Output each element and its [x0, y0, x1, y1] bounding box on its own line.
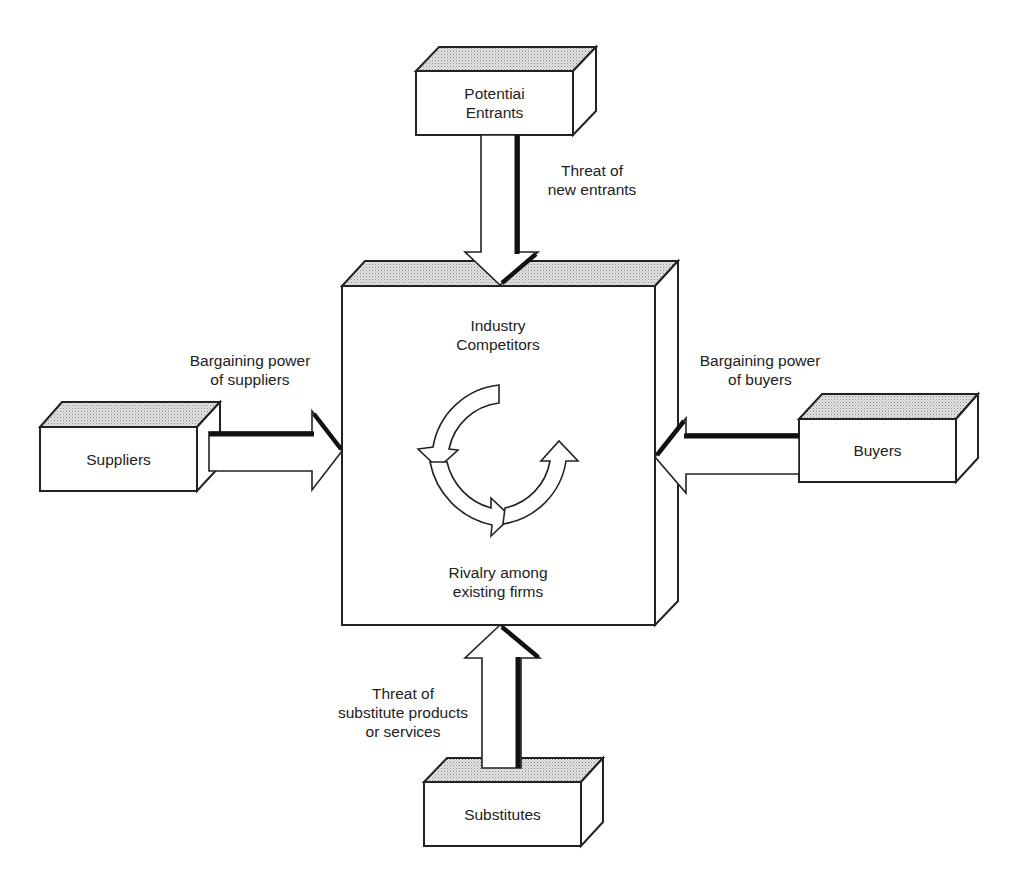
substitutes-box: [424, 758, 603, 846]
buyer-power-arrow: [655, 418, 799, 493]
industry-competitors-line1: Industry: [398, 316, 598, 335]
potential-entrants-line1: Potentiai: [416, 84, 573, 103]
industry-competitors-label: Industry Competitors: [398, 316, 598, 354]
new-entrants-arrow: [465, 135, 538, 285]
buyers-box: [799, 394, 978, 482]
threat-new-entrants-label: Threat of new entrants: [532, 161, 652, 199]
supplier-power-line2: of suppliers: [155, 370, 345, 389]
rivalry-label: Rivalry among existing firms: [398, 563, 598, 601]
potential-entrants-label: Potentiai Entrants: [416, 84, 573, 122]
rivalry-line2: existing firms: [398, 582, 598, 601]
threat-substitutes-line2: substitute products: [318, 703, 488, 722]
threat-new-entrants-line2: new entrants: [532, 180, 652, 199]
potential-entrants-line2: Entrants: [416, 103, 573, 122]
buyer-power-line1: Bargaining power: [665, 351, 855, 370]
buyer-power-line2: of buyers: [665, 370, 855, 389]
buyers-label: Buyers: [799, 441, 956, 460]
buyer-power-label: Bargaining power of buyers: [665, 351, 855, 389]
suppliers-label: Suppliers: [40, 450, 197, 469]
supplier-power-line1: Bargaining power: [155, 351, 345, 370]
rivalry-line1: Rivalry among: [398, 563, 598, 582]
threat-substitutes-line1: Threat of: [318, 684, 488, 703]
industry-competitors-line2: Competitors: [398, 335, 598, 354]
threat-substitutes-line3: or services: [318, 722, 488, 741]
supplier-power-label: Bargaining power of suppliers: [155, 351, 345, 389]
substitutes-label: Substitutes: [424, 805, 581, 824]
supplier-power-arrow: [209, 411, 342, 490]
threat-substitutes-label: Threat of substitute products or service…: [318, 684, 488, 741]
threat-new-entrants-line1: Threat of: [532, 161, 652, 180]
suppliers-box: [40, 402, 220, 491]
